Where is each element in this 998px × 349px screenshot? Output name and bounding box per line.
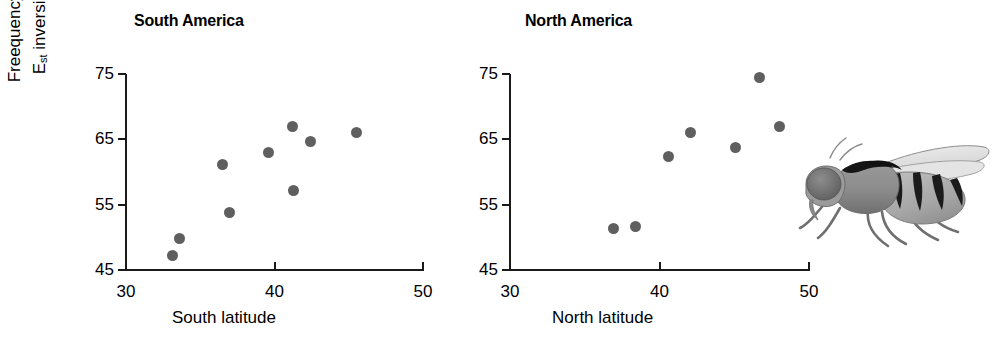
y-tick-label-north-45: 45 xyxy=(479,260,498,280)
data-point xyxy=(305,136,316,147)
x-tick-labels-north: 304050 xyxy=(510,270,809,300)
panel-title-south-america: South America xyxy=(134,12,244,30)
data-point xyxy=(754,72,765,83)
panel-south-america: South America 45556575 304050 South lati… xyxy=(0,0,470,349)
plot-area-south-america: 45556575 304050 xyxy=(126,74,423,270)
x-tick-north-30 xyxy=(509,262,511,270)
y-tick-south-55 xyxy=(118,204,126,206)
data-point xyxy=(287,121,298,132)
y-tick-label-north-55: 55 xyxy=(479,195,498,215)
y-axis-line-north xyxy=(509,74,511,271)
x-tick-south-40 xyxy=(274,262,276,270)
data-point xyxy=(730,142,741,153)
data-point xyxy=(224,207,235,218)
x-tick-north-40 xyxy=(659,262,661,270)
x-tick-south-30 xyxy=(125,262,127,270)
y-tick-north-55 xyxy=(502,204,510,206)
y-tick-label-south-55: 55 xyxy=(95,195,114,215)
y-axis-title-rest: inversion xyxy=(30,0,49,54)
x-tick-label-south-40: 40 xyxy=(265,282,284,302)
x-axis-title-south: South latitude xyxy=(172,308,276,328)
data-point xyxy=(167,250,178,261)
data-point xyxy=(685,127,696,138)
x-tick-labels-south: 304050 xyxy=(126,270,423,300)
x-tick-label-north-40: 40 xyxy=(650,282,669,302)
data-point xyxy=(263,147,274,158)
y-tick-labels-north: 45556575 xyxy=(464,74,498,270)
y-tick-label-south-65: 65 xyxy=(95,129,114,149)
drosophila-fly-icon xyxy=(782,128,998,260)
y-axis-title-line2: Est inversion xyxy=(27,0,56,128)
y-tick-south-65 xyxy=(118,138,126,140)
y-tick-label-north-65: 65 xyxy=(479,129,498,149)
y-axis-title-base: E xyxy=(30,63,49,74)
plot-area-north-america: 45556575 304050 xyxy=(510,74,809,270)
y-axis-line-south xyxy=(125,74,127,271)
x-tick-south-50 xyxy=(422,262,424,270)
y-tick-north-65 xyxy=(502,138,510,140)
data-point xyxy=(630,221,641,232)
data-point xyxy=(608,223,619,234)
y-tick-label-north-75: 75 xyxy=(479,64,498,84)
y-axis-title-south: Freequency of Est inversion xyxy=(2,0,58,128)
y-axis-title-subscript: st xyxy=(37,54,49,63)
y-tick-north-75 xyxy=(502,73,510,75)
y-axis-title-line1: Freequency of xyxy=(2,0,27,128)
y-tick-label-south-75: 75 xyxy=(95,64,114,84)
figure-scatter-panels: South America 45556575 304050 South lati… xyxy=(0,0,998,349)
x-tick-label-north-50: 50 xyxy=(800,282,819,302)
x-axis-title-north: North latitude xyxy=(552,308,653,328)
y-tick-south-75 xyxy=(118,73,126,75)
panel-title-north-america: North America xyxy=(525,12,632,30)
x-tick-label-south-30: 30 xyxy=(117,282,136,302)
x-tick-label-south-50: 50 xyxy=(414,282,433,302)
x-tick-label-north-30: 30 xyxy=(501,282,520,302)
data-point xyxy=(351,127,362,138)
y-tick-label-south-45: 45 xyxy=(95,260,114,280)
data-point xyxy=(174,233,185,244)
data-point xyxy=(663,151,674,162)
y-tick-labels-south: 45556575 xyxy=(80,74,114,270)
data-point xyxy=(288,185,299,196)
data-point xyxy=(217,159,228,170)
x-tick-north-50 xyxy=(808,262,810,270)
